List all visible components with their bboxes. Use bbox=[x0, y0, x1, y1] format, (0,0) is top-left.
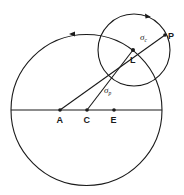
point-p bbox=[163, 33, 167, 37]
point-c bbox=[85, 108, 89, 112]
line-c-l bbox=[87, 50, 133, 110]
label-a: A bbox=[57, 115, 64, 125]
sigma-p-label: σp bbox=[104, 85, 111, 96]
line-a-p bbox=[60, 35, 165, 110]
point-a bbox=[58, 108, 62, 112]
label-p: P bbox=[168, 31, 174, 41]
geometry-diagram: A C E L P σc σp bbox=[0, 0, 184, 195]
label-l: L bbox=[130, 55, 136, 65]
sigma-c-label: σc bbox=[140, 32, 147, 43]
label-c: C bbox=[84, 115, 91, 125]
point-e bbox=[112, 108, 116, 112]
point-l bbox=[131, 48, 135, 52]
label-e: E bbox=[111, 115, 117, 125]
